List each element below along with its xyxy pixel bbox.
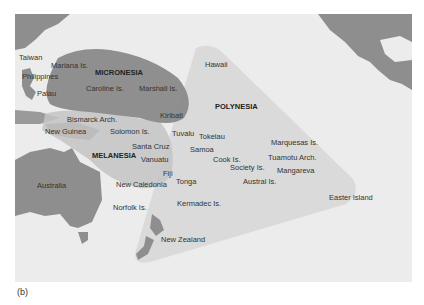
place-label: Hawaii xyxy=(205,61,228,69)
place-label: New Guinea xyxy=(45,128,86,136)
place-label: New Caledonia xyxy=(116,181,167,189)
place-label: Norfolk Is. xyxy=(113,204,147,212)
place-label: Tokelau xyxy=(199,133,225,141)
place-label: Solomon Is. xyxy=(110,128,150,136)
place-label: Samoa xyxy=(190,146,214,154)
place-label: Kiribati xyxy=(160,112,183,120)
place-label: Mangareva xyxy=(277,167,315,175)
place-label: Caroline Is. xyxy=(86,85,124,93)
place-label: Palau xyxy=(37,90,56,98)
place-label: Tonga xyxy=(176,178,196,186)
place-label: Tuvalu xyxy=(172,130,194,138)
place-label: Santa Cruz xyxy=(132,143,170,151)
figure-caption: (b) xyxy=(17,287,28,297)
place-label: Taiwan xyxy=(19,54,42,62)
place-label: Philippines xyxy=(22,73,58,81)
region-label-micronesia: MICRONESIA xyxy=(95,69,143,77)
place-label: Marshall Is. xyxy=(139,85,177,93)
place-label: Bismarck Arch. xyxy=(67,116,117,124)
place-label: Tuamotu Arch. xyxy=(268,154,317,162)
place-label: Easter Island xyxy=(329,194,373,202)
region-label-polynesia: POLYNESIA xyxy=(215,103,258,111)
place-label: Kermadec Is. xyxy=(177,200,221,208)
place-label: Marquesas Is. xyxy=(271,139,318,147)
place-label: Australia xyxy=(37,182,66,190)
place-label: Austral Is. xyxy=(243,178,276,186)
place-label: New Zealand xyxy=(161,236,205,244)
place-label: Fiji xyxy=(163,170,173,178)
place-label: Vanuatu xyxy=(141,156,168,164)
region-label-melanesia: MELANESIA xyxy=(92,152,136,160)
place-label: Society Is. xyxy=(230,164,265,172)
place-label: Mariana Is. xyxy=(51,62,88,70)
